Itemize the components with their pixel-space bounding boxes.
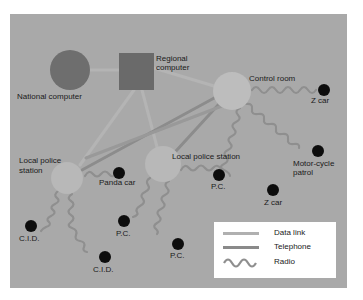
local-station-center-label: Local police station xyxy=(172,152,240,161)
z-car-2-dot xyxy=(267,184,279,196)
telephone-swatch-icon xyxy=(223,246,259,250)
regional-computer-node xyxy=(119,53,154,90)
cid-bottom-label: C.I.D. xyxy=(93,265,113,274)
local-station-left-label-1: Local police xyxy=(19,156,61,165)
local-station-left-label-2: station xyxy=(19,166,43,175)
regional-computer-label-2: computer xyxy=(156,63,189,72)
legend: Data link Telephone Radio xyxy=(214,222,336,278)
regional-computer-label-1: Regional xyxy=(156,54,188,63)
legend-item-telephone: Telephone xyxy=(214,242,336,256)
control-room-label: Control room xyxy=(249,74,295,83)
pc-left-dot xyxy=(118,215,130,227)
national-computer-node xyxy=(50,50,90,90)
cid-left-label: C.I.D. xyxy=(19,234,39,243)
legend-item-radio: Radio xyxy=(214,257,336,271)
cid-left-dot xyxy=(25,220,37,232)
motorcycle-patrol-label-2: patrol xyxy=(293,168,313,177)
cid-bottom-dot xyxy=(99,251,111,263)
z-car-1-label: Z car xyxy=(311,96,329,105)
pc-left-label: P.C. xyxy=(116,229,131,238)
local-station-left-node xyxy=(51,162,83,194)
motorcycle-patrol-dot xyxy=(312,145,324,157)
data-link-swatch-icon xyxy=(223,232,259,236)
national-computer-label: National computer xyxy=(17,92,82,101)
radio-wave-swatch-icon xyxy=(223,257,259,269)
legend-label-data-link: Data link xyxy=(274,228,305,237)
z-car-1-dot xyxy=(318,84,330,96)
panda-car-label: Panda car xyxy=(99,178,135,187)
motorcycle-patrol-label-1: Motor-cycle xyxy=(293,159,334,168)
pc-right-dot xyxy=(213,169,225,181)
control-room-node xyxy=(213,72,251,110)
legend-label-telephone: Telephone xyxy=(274,242,311,251)
pc-bottom-label: P.C. xyxy=(170,251,185,260)
pc-bottom-dot xyxy=(172,238,184,250)
z-car-2-label: Z car xyxy=(264,198,282,207)
pc-right-label: P.C. xyxy=(211,182,226,191)
legend-label-radio: Radio xyxy=(274,257,295,266)
legend-item-data-link: Data link xyxy=(214,228,336,242)
